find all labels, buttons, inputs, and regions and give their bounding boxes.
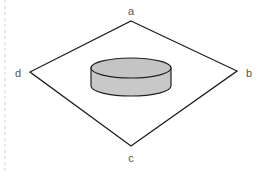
vertex-label-d: d xyxy=(15,68,21,79)
vertex-label-a: a xyxy=(128,6,134,17)
vertex-label-b: b xyxy=(246,68,252,79)
vertex-label-c: c xyxy=(128,153,134,164)
diagram-svg xyxy=(0,0,264,174)
cylinder xyxy=(91,58,171,96)
diagram-canvas: a b c d xyxy=(0,0,264,174)
cylinder-top xyxy=(91,58,171,78)
